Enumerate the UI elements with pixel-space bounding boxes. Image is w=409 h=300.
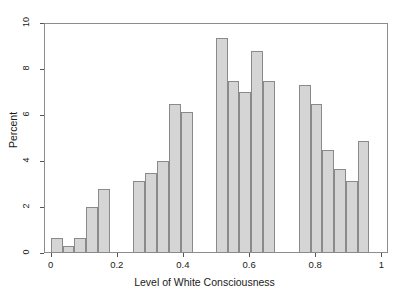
y-axis-tick bbox=[40, 207, 44, 208]
histogram-bar bbox=[311, 104, 323, 254]
y-axis-tick bbox=[40, 69, 44, 70]
y-axis-tick bbox=[40, 23, 44, 24]
x-axis-tick-label: 0.8 bbox=[295, 259, 335, 270]
x-axis-tick-label: 0.4 bbox=[163, 259, 203, 270]
histogram-bar bbox=[74, 238, 86, 253]
histogram-bar bbox=[322, 150, 334, 254]
histogram-bar bbox=[239, 92, 251, 253]
histogram-bar bbox=[251, 51, 263, 253]
histogram-bar bbox=[228, 81, 240, 254]
histogram-bar bbox=[86, 207, 98, 253]
x-axis-tick bbox=[315, 253, 316, 257]
histogram-bar bbox=[133, 181, 145, 253]
y-axis-tick-label: 4 bbox=[21, 150, 31, 170]
histogram-bar bbox=[334, 169, 346, 253]
y-axis-tick-label: 10 bbox=[21, 12, 31, 32]
x-axis-tick bbox=[381, 253, 382, 257]
x-axis-tick-label: 1 bbox=[361, 259, 401, 270]
histogram-bar bbox=[346, 181, 358, 253]
histogram-bar bbox=[181, 112, 193, 253]
x-axis-tick bbox=[249, 253, 250, 257]
plot-area bbox=[44, 23, 388, 253]
x-axis-tick bbox=[51, 253, 52, 257]
y-axis-tick-label: 0 bbox=[21, 242, 31, 262]
x-axis-tick-label: 0.2 bbox=[97, 259, 137, 270]
histogram-bar bbox=[299, 85, 311, 253]
histogram-bar bbox=[51, 238, 63, 253]
y-axis-tick bbox=[40, 253, 44, 254]
x-axis-tick-label: 0 bbox=[31, 259, 71, 270]
y-axis-title: Percent bbox=[7, 95, 19, 165]
histogram-bar bbox=[98, 189, 110, 253]
histogram-bar bbox=[157, 161, 169, 253]
x-axis-tick-label: 0.6 bbox=[229, 259, 269, 270]
y-axis-tick-label: 6 bbox=[21, 104, 31, 124]
x-axis-title: Level of White Consciousness bbox=[0, 276, 409, 288]
histogram-bar bbox=[169, 104, 181, 254]
histogram-bar bbox=[145, 173, 157, 254]
y-axis-tick bbox=[40, 115, 44, 116]
histogram-bar bbox=[358, 141, 370, 253]
histogram-bar bbox=[263, 81, 275, 254]
y-axis-tick-label: 8 bbox=[21, 58, 31, 78]
x-axis-tick bbox=[183, 253, 184, 257]
histogram-bar bbox=[63, 246, 75, 253]
histogram-figure: 0246810 00.20.40.60.81 Level of White Co… bbox=[0, 0, 409, 300]
x-axis-tick bbox=[117, 253, 118, 257]
y-axis-tick-label: 2 bbox=[21, 196, 31, 216]
y-axis-tick bbox=[40, 161, 44, 162]
histogram-bar bbox=[216, 38, 228, 253]
